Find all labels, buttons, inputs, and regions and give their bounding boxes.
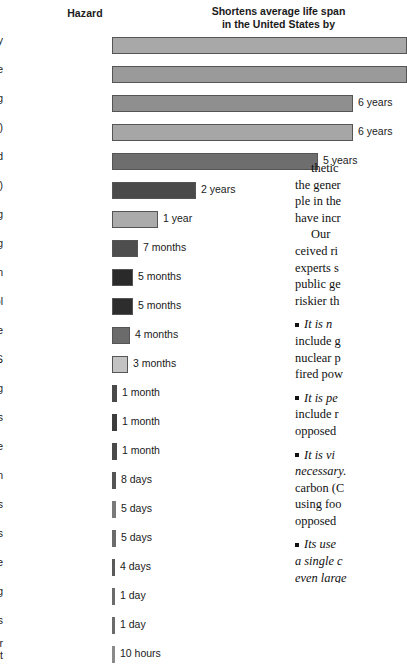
bar [112,182,196,199]
chart-row: Toxic waste4 days [0,556,300,585]
body-line-italic: It is vi [304,448,335,462]
body-line: public ge [295,276,407,293]
bar-category-label-text: Fire [0,440,3,452]
bar-category-label-text: Spouse smoking [0,208,3,220]
bar [112,356,128,373]
body-line-italic-inner: a single c [295,554,343,568]
chart-row: Alcohol5 months [0,295,300,324]
chart-row: Hurricanes, tornadoes1 day [0,614,300,643]
bar-value-label: 1 month [122,444,160,456]
chart-row: AIDS3 months [0,353,300,382]
column-header-shortens: Shortens average life span in the United… [150,5,407,30]
bar-category-label-text: Hurricanes, tornadoes [0,614,3,626]
body-line-italic: It is pe [304,391,338,405]
chart-row: Overweight (15%)2 years [0,179,300,208]
bar [112,617,115,634]
chart-row: Drug abuse4 months [0,324,300,353]
bar-category-label-text: Driving [0,237,3,249]
bar [112,211,158,228]
body-line-italic: even large [295,570,407,583]
chart-row: Overweight (35%)6 years [0,121,300,150]
bar-value-label: 5 months [138,299,181,311]
column-header-hazard: Hazard [0,7,170,19]
body-line: using foo [295,496,407,513]
bar [112,66,407,83]
bullet-item: It is vi [295,447,407,464]
bar [112,501,116,518]
body-line: opposed [295,513,407,530]
body-line: opposed [295,423,407,440]
bullet-square-icon [295,323,299,327]
chart-header: Hazard Shortens average life span in the… [0,0,407,34]
bar [112,588,115,605]
body-line-italic-inner: necessary. [295,464,346,478]
bullet-square-icon [295,396,299,400]
chart-row: Air pollution5 months [0,266,300,295]
bullet-item: It is pe [295,390,407,407]
bar [112,646,115,663]
body-line: include r [295,406,407,423]
bullet-item: Its use [295,536,407,553]
column-header-shortens-line1: Shortens average life span [150,5,407,18]
bullet-square-icon [295,543,299,547]
bar [112,240,138,257]
chart-row: Poverty [0,34,300,63]
bar-category-label-text: Unmarried [0,150,3,162]
bar-category-label-text: Overweight (15%) [0,179,3,191]
bullet-item: It is n [295,316,407,333]
body-line: experts s [295,260,407,277]
bar-value-label: 5 days [121,502,152,514]
chart-row: Smoking6 years [0,92,300,121]
body-line: have incr [295,210,407,227]
bar [112,153,318,170]
bar [112,414,117,431]
bar-value-label: 5 months [138,270,181,282]
bar-category-label-text: AIDS [0,353,3,365]
bar-value-label: 5 days [121,531,152,543]
bar-value-label: 10 hours [120,647,161,659]
bar-category-label-text: Poverty [0,34,3,46]
bar-category-label-text: Overweight (35%) [0,121,3,133]
chart-row: Driving7 months [0,237,300,266]
bar-category-label-text: Pesticides [0,411,3,423]
bar-value-label: 2 years [201,183,235,195]
bar [112,269,133,286]
bar-category-label-text: Toxic waste [0,556,3,568]
chart-row: Born male [0,63,300,92]
body-line: riskier th [295,293,407,310]
body-line: include g [295,333,407,350]
bar [112,95,353,112]
bar-category-label-text: Medical X rays [0,498,3,510]
chart-row: Flying1 day [0,585,300,614]
chart-row: Medical X rays5 days [0,498,300,527]
body-line: thetic [295,160,407,177]
article-text-column: thetic the gener ple in the have incr Ou… [295,160,407,583]
bar [112,559,115,576]
bar-category-label-text: Oral contraceptives [0,527,3,539]
bar-value-label: 6 years [358,125,392,137]
bar-category-label-text: Alcohol [0,295,3,307]
bar-value-label: 1 day [120,589,146,601]
body-line: carbon (C [295,480,407,497]
bar-value-label: 1 year [163,212,192,224]
bullet-square-icon [295,453,299,457]
bar [112,37,407,54]
bar [112,327,130,344]
chart-row: Drowning1 month [0,382,300,411]
bar-value-label: 6 years [358,96,392,108]
bar-value-label: 1 month [122,415,160,427]
column-header-shortens-line2: in the United States by [150,18,407,31]
chart-row: Natural radiation8 days [0,469,300,498]
body-line-italic: It is n [304,317,332,331]
bar [112,298,133,315]
body-line-italic-inner: even large [295,571,347,583]
bar-category-label-text: Drowning [0,382,3,394]
bar-category-label-text: Living lifetime near nuclear plant [0,637,3,661]
body-line: ceived ri [295,243,407,260]
bar [112,530,116,547]
bar-value-label: 4 days [120,560,151,572]
body-line: nuclear p [295,350,407,367]
chart-row: Pesticides1 month [0,411,300,440]
bar [112,443,117,460]
